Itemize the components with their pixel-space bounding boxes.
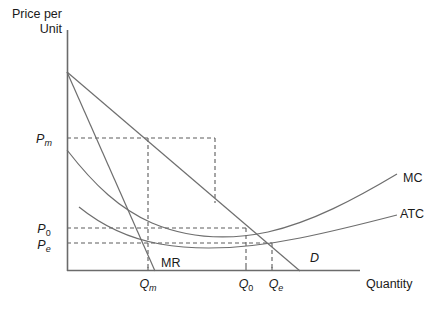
price-label-pe: Pe	[37, 238, 50, 254]
guide-lines	[67, 138, 272, 271]
economics-diagram: Price per Unit Quantity Pm P0 Pe Qm Q0 Q	[0, 0, 447, 311]
quantity-label-qm-sub: m	[149, 283, 157, 293]
quantity-label-qm-base: Q	[139, 277, 149, 291]
curve-label-atc: ATC	[400, 207, 424, 221]
quantity-label-qe-sub: e	[278, 283, 283, 293]
demand-curve	[67, 72, 300, 271]
price-label-p0: P0	[37, 222, 50, 238]
x-axis-title: Quantity	[366, 277, 413, 291]
marginal-cost-curve	[67, 150, 397, 237]
price-label-pm-sub: m	[44, 138, 52, 148]
quantity-label-q0-base: Q	[239, 277, 249, 291]
curves	[67, 72, 397, 271]
quantity-label-q0-sub: 0	[248, 283, 253, 293]
price-label-pm: Pm	[36, 132, 52, 148]
price-label-pe-sub: e	[46, 244, 51, 254]
y-axis-title-line2: Unit	[40, 22, 63, 36]
marginal-revenue-curve	[67, 72, 155, 271]
price-axis-labels: Pm P0 Pe	[36, 132, 52, 254]
quantity-label-q0: Q0	[239, 277, 254, 293]
chart-canvas: Price per Unit Quantity Pm P0 Pe Qm Q0 Q	[0, 0, 447, 311]
curve-label-mc: MC	[403, 171, 422, 185]
quantity-label-qm: Qm	[139, 277, 157, 293]
quantity-axis-labels: Qm Q0 Qe	[139, 277, 283, 293]
price-label-p0-sub: 0	[46, 228, 51, 238]
quantity-label-qe: Qe	[269, 277, 284, 293]
curve-label-mr: MR	[161, 256, 180, 270]
curve-label-demand: D	[310, 251, 319, 265]
y-axis-title-line1: Price per	[12, 7, 62, 21]
quantity-label-qe-base: Q	[269, 277, 279, 291]
